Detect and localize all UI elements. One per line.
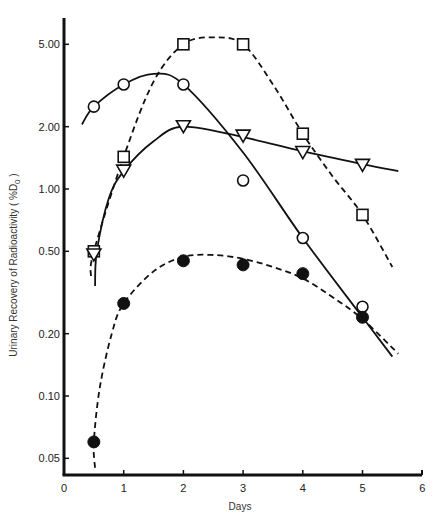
y-tick-label: 0.10	[39, 390, 60, 402]
x-tick-label: 5	[359, 482, 365, 494]
open-circle-marker	[88, 101, 99, 112]
y-tick-label: 0.05	[39, 452, 60, 464]
open-square-marker	[118, 151, 129, 162]
y-axis-label-main: Urinary Recovery of Radioactivity ( %D	[8, 184, 19, 357]
y-tick-label: 1.00	[39, 183, 60, 195]
open-square-marker	[238, 39, 249, 50]
open-circle-marker	[118, 79, 129, 90]
open-circle-marker	[357, 301, 368, 312]
x-tick-label: 4	[300, 482, 306, 494]
x-tick-label: 2	[180, 482, 186, 494]
x-tick-label: 0	[61, 482, 67, 494]
open-square-marker	[357, 209, 368, 220]
y-tick-label: 5.00	[39, 38, 60, 50]
x-tick-label: 3	[240, 482, 246, 494]
open-square-marker	[297, 128, 308, 139]
open-circle-marker	[297, 232, 308, 243]
markers	[87, 39, 370, 448]
open-circle-marker	[178, 79, 189, 90]
y-axis-label: Urinary Recovery of Radioactivity ( %D0 …	[8, 173, 22, 356]
chart-plot: 0.050.100.200.501.002.005.000123456 Days…	[0, 0, 442, 528]
open-square-marker	[178, 39, 189, 50]
y-tick-label: 2.00	[39, 121, 60, 133]
open-circles-curve	[82, 74, 392, 357]
open-triangle-marker	[117, 165, 131, 177]
curves	[82, 37, 398, 467]
x-tick-label: 6	[419, 482, 425, 494]
y-tick-label: 0.20	[39, 328, 60, 340]
open-circle-marker	[238, 175, 249, 186]
filled-circle-marker	[357, 311, 369, 323]
y-tick-label: 0.50	[39, 245, 60, 257]
y-axis-label-close: )	[8, 173, 19, 179]
filled-circle-marker	[297, 268, 309, 280]
filled-circle-marker	[177, 255, 189, 267]
x-tick-label: 1	[121, 482, 127, 494]
filled-circle-marker	[237, 259, 249, 271]
filled-circle-marker	[118, 297, 130, 309]
x-axis-label: Days	[229, 501, 252, 512]
filled-circle-marker	[88, 436, 100, 448]
chart: 0.050.100.200.501.002.005.000123456 Days…	[0, 0, 442, 528]
filled-circles-curve	[94, 255, 399, 468]
